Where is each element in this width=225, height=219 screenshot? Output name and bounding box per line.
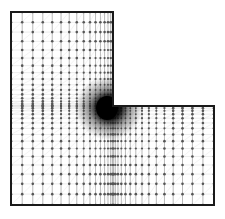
mesh-node	[42, 89, 45, 92]
mesh-node	[155, 117, 157, 119]
mesh-node	[148, 164, 151, 167]
mesh-node	[31, 127, 34, 130]
mesh-node	[163, 71, 166, 74]
mesh-node	[155, 40, 158, 43]
mesh-node	[107, 193, 110, 196]
mesh-node	[75, 40, 78, 43]
mesh-node	[75, 57, 78, 60]
mesh-node	[148, 21, 151, 24]
mesh-node	[114, 11, 117, 14]
mesh-node	[202, 110, 205, 113]
mesh-node	[141, 93, 143, 95]
mesh-node	[117, 94, 119, 96]
mesh-node	[191, 117, 194, 120]
mesh-node	[89, 21, 92, 24]
mesh-node	[120, 84, 122, 86]
mesh-line	[115, 12, 121, 32]
mesh-node	[89, 72, 91, 74]
mesh-node	[163, 110, 165, 112]
mesh-node	[155, 164, 158, 167]
mesh-node	[148, 113, 150, 115]
mesh-node	[120, 183, 123, 186]
mesh-node	[191, 11, 194, 14]
mesh-node	[163, 89, 165, 91]
mesh-node	[172, 164, 175, 167]
mesh-node	[103, 57, 105, 59]
mesh-node	[99, 31, 102, 34]
mesh-node	[107, 147, 109, 149]
mesh-node	[141, 97, 143, 99]
mesh-node	[129, 11, 132, 14]
mesh-node	[124, 11, 127, 14]
mesh-node	[82, 183, 85, 186]
mesh-node	[141, 193, 144, 196]
mesh-node	[163, 97, 165, 99]
mesh-node	[141, 84, 143, 86]
mesh-node	[124, 173, 127, 176]
mesh-node	[129, 72, 131, 74]
mesh-node	[202, 133, 205, 136]
mesh-node	[114, 31, 117, 34]
mesh-node	[60, 97, 62, 99]
mesh-node	[135, 133, 137, 135]
mesh-node	[42, 164, 45, 167]
mesh-node	[155, 155, 158, 158]
mesh-node	[51, 155, 54, 158]
mesh-node	[21, 107, 24, 110]
mesh-node	[42, 113, 45, 116]
mesh-node	[120, 100, 122, 102]
mesh-node	[135, 57, 137, 59]
mesh-node	[202, 49, 205, 52]
mesh-node	[172, 40, 175, 43]
mesh-node	[117, 100, 119, 102]
mesh-node	[94, 140, 96, 142]
mesh-node	[60, 183, 63, 186]
mesh-node	[181, 117, 184, 120]
mesh-line	[142, 90, 156, 98]
mesh-node	[172, 100, 175, 103]
mesh-node	[31, 31, 34, 34]
mesh-node	[68, 93, 70, 95]
mesh-node	[148, 122, 150, 124]
mesh-node	[94, 155, 96, 157]
mesh-node	[21, 64, 24, 67]
mesh-node	[191, 164, 194, 167]
mesh-node	[82, 31, 85, 34]
mesh-node	[155, 100, 157, 102]
mesh-node	[117, 140, 119, 142]
mesh-node	[191, 57, 194, 60]
mesh-node	[135, 183, 138, 186]
mesh-node	[107, 49, 109, 51]
mesh-node	[125, 97, 127, 99]
mesh-line	[130, 79, 142, 90]
mesh-line	[142, 79, 156, 90]
mesh-node	[42, 78, 45, 81]
mesh-node	[172, 117, 175, 120]
mesh-node	[60, 21, 63, 24]
mesh-node	[202, 11, 205, 14]
mesh-node	[68, 31, 71, 34]
mesh-node	[60, 31, 63, 34]
mesh-node	[191, 133, 194, 136]
mesh-node	[89, 65, 91, 67]
mesh-node	[94, 49, 96, 51]
mesh-node	[202, 21, 205, 24]
mesh-node	[60, 164, 63, 167]
mesh-node	[181, 78, 184, 81]
mesh-node	[31, 140, 34, 143]
mesh-node	[141, 49, 144, 52]
mesh-node	[141, 78, 143, 80]
mesh-node	[114, 78, 116, 80]
mesh-node	[172, 71, 175, 74]
mesh-node	[42, 122, 45, 125]
mesh-line	[173, 50, 192, 66]
mesh-node	[51, 71, 54, 74]
mesh-node	[148, 89, 150, 91]
mesh-node	[107, 183, 110, 186]
mesh-line	[121, 12, 130, 32]
mesh-node	[155, 84, 157, 86]
mesh-node	[163, 40, 166, 43]
mesh-node	[148, 127, 150, 129]
mesh-node	[114, 94, 116, 96]
mesh-node	[31, 117, 34, 120]
